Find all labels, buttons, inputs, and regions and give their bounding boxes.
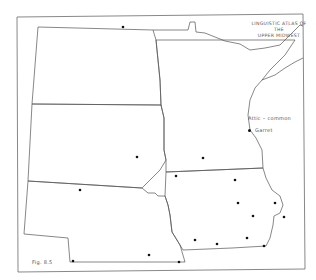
legend-title: Attic – common [248, 115, 291, 121]
garret-dot [175, 175, 178, 178]
garret-dot [136, 156, 139, 159]
garret-dot [148, 254, 151, 257]
legend-label: Garret [255, 127, 273, 133]
state-south-dakota [28, 104, 166, 188]
garret-dot [216, 243, 219, 246]
title-line-2: UPPER MIDWEST [246, 33, 312, 39]
data-dots [72, 26, 286, 264]
state-minnesota [153, 22, 295, 172]
garret-dot [72, 260, 75, 263]
garret-dot [237, 202, 240, 205]
title-line-1: LINGUISTIC ATLAS OF THE [246, 21, 312, 33]
state-north-dakota [32, 27, 161, 105]
garret-dot [234, 179, 237, 182]
garret-dot [263, 245, 266, 248]
state-iowa [165, 168, 283, 250]
garret-dot [252, 215, 255, 218]
garret-dot [274, 202, 277, 205]
map-title: LINGUISTIC ATLAS OF THE UPPER MIDWEST [246, 21, 312, 39]
map-canvas [0, 0, 316, 280]
legend-item-garret: Garret [248, 127, 273, 133]
map-frame [17, 14, 305, 272]
garret-dot [283, 216, 286, 219]
state-nebraska [24, 181, 185, 262]
garret-dot [202, 157, 205, 160]
garret-dot [246, 237, 249, 240]
garret-dot [122, 26, 125, 29]
garret-dot [178, 261, 181, 264]
garret-dot [194, 239, 197, 242]
figure-label: Fig. 8.5 [32, 259, 53, 265]
dot-icon [248, 129, 251, 132]
garret-dot [79, 189, 82, 192]
